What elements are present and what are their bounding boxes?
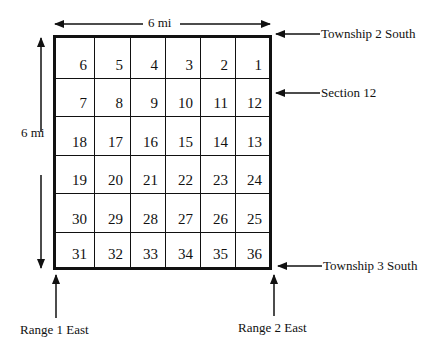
section-cell: 35	[201, 233, 236, 267]
section-cell: 8	[95, 79, 131, 117]
section-cell: 7	[56, 79, 95, 117]
section-cell: 18	[56, 117, 95, 156]
range-1-east-label: Range 1 East	[20, 322, 89, 338]
section-cell: 9	[131, 79, 166, 117]
section-cell: 11	[201, 79, 236, 117]
section-cell: 22	[166, 156, 201, 194]
section-cell: 14	[201, 117, 236, 156]
section-cell: 20	[95, 156, 131, 194]
section-cell: 33	[131, 233, 166, 267]
range-2-east-label: Range 2 East	[238, 320, 307, 336]
section-cell: 3	[166, 38, 201, 79]
section-cell: 28	[131, 194, 166, 233]
section-cell: 34	[166, 233, 201, 267]
section-cell: 21	[131, 156, 166, 194]
section-cell: 26	[201, 194, 236, 233]
top-dimension-label: 6 mi	[148, 15, 171, 31]
section-cell-12: 12	[236, 79, 269, 117]
township-3-south-label: Township 3 South	[323, 258, 417, 274]
section-cell: 25	[236, 194, 269, 233]
section-cell: 13	[236, 117, 269, 156]
section-cell: 2	[201, 38, 236, 79]
township-grid: 6 5 4 3 2 1 7 8 9 10 11 12 18 17 16 15 1…	[53, 35, 272, 270]
section-cell: 30	[56, 194, 95, 233]
section-cell: 36	[236, 233, 269, 267]
section-cell: 24	[236, 156, 269, 194]
section-cell: 1	[236, 38, 269, 79]
section-12-label: Section 12	[321, 85, 376, 101]
section-cell: 29	[95, 194, 131, 233]
section-cell: 23	[201, 156, 236, 194]
section-cell: 19	[56, 156, 95, 194]
section-cell: 27	[166, 194, 201, 233]
section-cell: 10	[166, 79, 201, 117]
left-dimension-label: 6 mi	[21, 125, 44, 141]
section-cell: 16	[131, 117, 166, 156]
section-cell: 4	[131, 38, 166, 79]
section-cell: 15	[166, 117, 201, 156]
section-cell: 17	[95, 117, 131, 156]
section-cell: 5	[95, 38, 131, 79]
section-cell: 32	[95, 233, 131, 267]
section-cell: 31	[56, 233, 95, 267]
township-2-south-label: Township 2 South	[321, 26, 415, 42]
section-cell: 6	[56, 38, 95, 79]
